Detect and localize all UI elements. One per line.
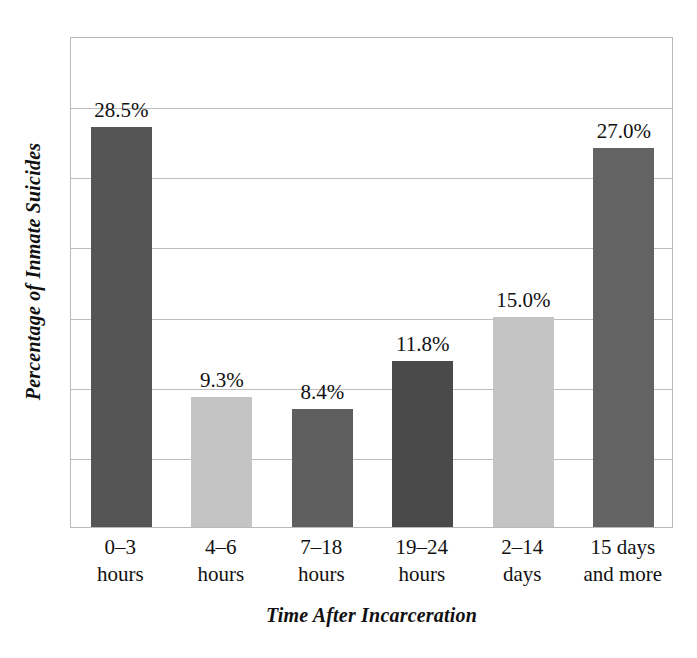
x-tick-line: hours [70,561,171,588]
bar-value-label: 27.0% [597,121,651,142]
x-tick-line: hours [372,561,473,588]
x-tick-line: 4–6 [171,534,272,561]
bar-group: 15.0% [493,38,554,527]
bar [392,361,453,527]
x-tick-label: 15 daysand more [573,534,674,588]
x-tick-label: 19–24hours [372,534,473,588]
x-tick-label: 2–14days [472,534,573,588]
bar-group: 27.0% [593,38,654,527]
bar [191,397,252,527]
bar-value-label: 11.8% [396,334,449,355]
bar-value-label: 8.4% [300,382,344,403]
x-tick-line: 0–3 [70,534,171,561]
x-tick-label: 4–6hours [171,534,272,588]
x-tick-line: 7–18 [271,534,372,561]
bar-group: 8.4% [292,38,353,527]
bar-group: 9.3% [191,38,252,527]
bar-series: 28.5%9.3%8.4%11.8%15.0%27.0% [71,38,672,527]
bar-group: 11.8% [392,38,453,527]
x-tick-line: and more [573,561,674,588]
x-axis-tick-labels: 0–3hours4–6hours7–18hours19–24hours2–14d… [70,534,673,606]
bar-value-label: 9.3% [200,370,244,391]
bar-chart-figure: Percentage of Inmate Suicides 28.5%9.3%8… [0,0,697,658]
bar [292,409,353,527]
x-tick-line: 19–24 [372,534,473,561]
x-tick-line: 2–14 [472,534,573,561]
x-axis-title: Time After Incarceration [70,604,673,627]
bar-group: 28.5% [91,38,152,527]
bar-value-label: 28.5% [94,100,148,121]
bar-value-label: 15.0% [496,290,550,311]
bar [593,148,654,527]
x-tick-line: 15 days [573,534,674,561]
x-tick-line: hours [271,561,372,588]
x-tick-label: 7–18hours [271,534,372,588]
x-tick-line: days [472,561,573,588]
bar [493,317,554,527]
plot-area: 28.5%9.3%8.4%11.8%15.0%27.0% [70,37,673,528]
x-tick-line: hours [171,561,272,588]
bar [91,127,152,527]
y-axis-title: Percentage of Inmate Suicides [22,52,45,492]
x-tick-label: 0–3hours [70,534,171,588]
